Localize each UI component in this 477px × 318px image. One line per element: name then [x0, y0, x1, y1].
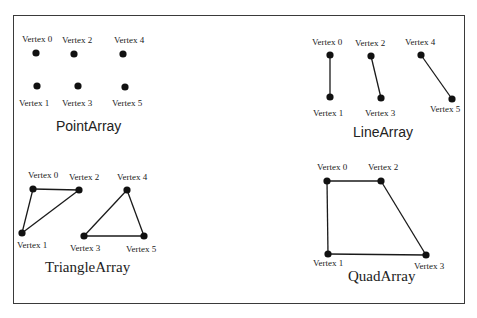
line-array-title: LineArray — [353, 124, 413, 140]
vertex-point — [140, 232, 147, 239]
geometry-array-diagram: Vertex 0Vertex 1Vertex 2Vertex 3Vertex 4… — [0, 0, 477, 318]
vertex-point — [121, 83, 128, 90]
vertex-point — [33, 82, 40, 89]
triangle-array-title: TriangleArray — [45, 259, 131, 275]
line-array-edge — [371, 56, 381, 98]
line-array-panel: Vertex 0Vertex 1Vertex 2Vertex 3Vertex 4… — [312, 37, 461, 140]
vertex-point — [326, 51, 333, 58]
quad-array-title: QuadArray — [348, 268, 416, 284]
vertex-label: Vertex 4 — [114, 35, 145, 45]
vertex-label: Vertex 5 — [126, 244, 157, 254]
diagram-canvas: Vertex 0Vertex 1Vertex 2Vertex 3Vertex 4… — [0, 0, 477, 318]
vertex-point — [417, 51, 424, 58]
quad-array-edge — [327, 181, 328, 254]
vertex-point — [377, 177, 384, 184]
vertex-point — [123, 186, 130, 193]
vertex-label: Vertex 1 — [17, 240, 47, 250]
triangle-array-edge — [33, 189, 79, 190]
vertex-label: Vertex 3 — [414, 261, 445, 271]
triangle-array-edge — [84, 190, 127, 236]
vertex-point — [323, 177, 330, 184]
vertex-label: Vertex 4 — [117, 172, 148, 182]
vertex-label: Vertex 1 — [313, 108, 343, 118]
quad-array-edge — [381, 181, 426, 255]
vertex-point — [422, 251, 429, 258]
vertex-point — [119, 50, 126, 57]
quad-array-edge — [328, 254, 426, 255]
point-array-title: PointArray — [56, 118, 121, 134]
vertex-label: Vertex 3 — [62, 98, 93, 108]
vertex-point — [70, 50, 77, 57]
vertex-point — [74, 82, 81, 89]
vertex-point — [448, 95, 455, 102]
vertex-label: Vertex 2 — [62, 35, 92, 45]
vertex-label: Vertex 0 — [312, 37, 343, 47]
vertex-label: Vertex 1 — [19, 98, 49, 108]
vertex-label: Vertex 1 — [313, 258, 343, 268]
vertex-point — [367, 52, 374, 59]
vertex-point — [29, 185, 36, 192]
vertex-point — [80, 232, 87, 239]
triangle-array-edge — [127, 190, 144, 236]
vertex-label: Vertex 2 — [69, 172, 99, 182]
vertex-label: Vertex 3 — [70, 243, 101, 253]
triangle-array-panel: Vertex 0Vertex 1Vertex 2Vertex 3Vertex 4… — [17, 170, 157, 275]
vertex-label: Vertex 3 — [365, 108, 396, 118]
vertex-point — [75, 186, 82, 193]
vertex-point — [326, 93, 333, 100]
vertex-label: Vertex 2 — [355, 38, 385, 48]
quad-array-panel: Vertex 0Vertex 1Vertex 2Vertex 3QuadArra… — [313, 162, 445, 284]
vertex-label: Vertex 0 — [317, 162, 348, 172]
vertex-label: Vertex 2 — [368, 162, 398, 172]
point-array-panel: Vertex 0Vertex 1Vertex 2Vertex 3Vertex 4… — [19, 34, 145, 134]
line-array-edge — [421, 55, 452, 99]
vertex-point — [324, 250, 331, 257]
vertex-label: Vertex 5 — [112, 98, 143, 108]
vertex-label: Vertex 0 — [28, 170, 59, 180]
vertex-label: Vertex 5 — [430, 104, 461, 114]
vertex-point — [377, 94, 384, 101]
vertex-point — [32, 49, 39, 56]
vertex-label: Vertex 0 — [22, 34, 53, 44]
vertex-point — [18, 229, 25, 236]
vertex-label: Vertex 4 — [405, 37, 436, 47]
